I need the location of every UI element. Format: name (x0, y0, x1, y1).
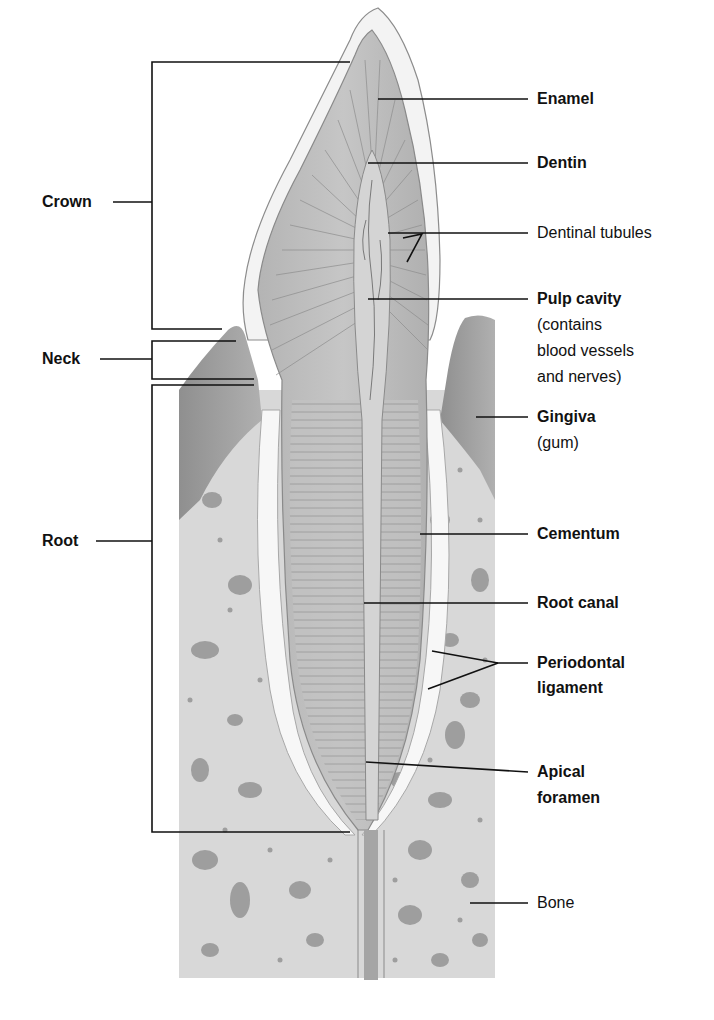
canal-through-bone (364, 830, 378, 980)
label-pulp-cavity: Pulp cavity (537, 286, 621, 312)
label-periodontal-ligament-2: ligament (537, 675, 603, 701)
label-periodontal-ligament-1: Periodontal (537, 650, 625, 676)
label-dentinal-tubules: Dentinal tubules (537, 220, 652, 246)
label-root-canal: Root canal (537, 590, 619, 616)
label-bone: Bone (537, 890, 574, 916)
label-apical-foramen-2: foramen (537, 785, 600, 811)
label-cementum: Cementum (537, 521, 620, 547)
label-crown: Crown (42, 189, 92, 215)
label-gingiva: Gingiva (537, 404, 596, 430)
label-gingiva-note: (gum) (537, 430, 579, 456)
label-root: Root (42, 528, 78, 554)
label-dentin: Dentin (537, 150, 587, 176)
label-pulp-cavity-note-2: blood vessels (537, 338, 634, 364)
label-pulp-cavity-note-3: and nerves) (537, 364, 622, 390)
tooth-diagram (0, 0, 714, 1020)
label-pulp-cavity-note-1: (contains (537, 312, 602, 338)
label-neck: Neck (42, 346, 80, 372)
label-enamel: Enamel (537, 86, 594, 112)
label-apical-foramen-1: Apical (537, 759, 585, 785)
